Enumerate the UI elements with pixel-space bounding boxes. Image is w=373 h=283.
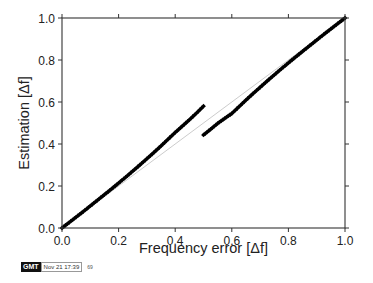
series-estimate-upper-branch — [201, 16, 347, 138]
y-tick-label: 1.0 — [38, 12, 55, 26]
timestamp: Nov 21 17:39 — [41, 262, 83, 272]
y-tick-label: 0.8 — [38, 54, 55, 68]
x-tick-label: 1.0 — [337, 234, 354, 248]
chart: 0.00.20.40.60.81.0 0.00.20.40.60.81.0 Fr… — [0, 0, 373, 283]
stamp-extra: 69 — [87, 264, 93, 270]
y-axis: 0.00.20.40.60.81.0 — [38, 12, 349, 236]
x-tick-label: 0.2 — [110, 234, 127, 248]
gmt-logo: GMT — [21, 262, 41, 272]
y-tick-label: 0.0 — [38, 222, 55, 236]
y-tick-label: 0.6 — [38, 96, 55, 110]
x-axis-title: Frequency error [Δf] — [139, 240, 268, 256]
gmt-timestamp: GMT Nov 21 17:39 69 — [21, 262, 93, 272]
x-axis: 0.00.20.40.60.81.0 — [54, 14, 354, 248]
y-tick-label: 0.2 — [38, 180, 55, 194]
x-tick-label: 0.8 — [280, 234, 297, 248]
series-estimate-lower-branch — [60, 104, 206, 231]
y-axis-title: Estimation [Δf] — [16, 76, 32, 170]
x-tick-label: 0.0 — [54, 234, 71, 248]
y-tick-label: 0.4 — [38, 138, 55, 152]
